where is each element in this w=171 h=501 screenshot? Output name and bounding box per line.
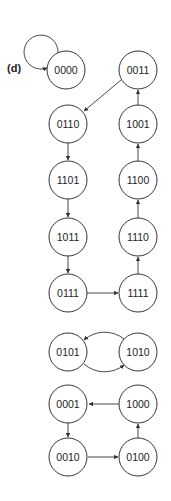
svg-text:0110: 0110 xyxy=(57,118,80,130)
svg-text:1100: 1100 xyxy=(127,174,150,186)
state-transition-diagram: (d) 0000 0011 0110 1001 1101 1100 1011 xyxy=(0,0,171,501)
state-node-1111: 1111 xyxy=(119,274,157,312)
state-node-0111: 0111 xyxy=(49,274,87,312)
state-node-0001: 0001 xyxy=(49,385,87,423)
state-node-0000: 0000 xyxy=(47,51,85,89)
svg-text:0010: 0010 xyxy=(56,451,80,463)
svg-text:1011: 1011 xyxy=(57,231,80,243)
svg-text:0001: 0001 xyxy=(56,398,80,410)
svg-text:0011: 0011 xyxy=(127,64,150,76)
svg-text:1110: 1110 xyxy=(127,231,149,243)
svg-text:1111: 1111 xyxy=(127,287,148,299)
state-node-1010: 1010 xyxy=(119,333,157,371)
edge-1010-0101-arc xyxy=(84,332,124,340)
state-node-0100: 0100 xyxy=(119,438,157,476)
svg-text:0111: 0111 xyxy=(57,287,79,299)
state-node-0110: 0110 xyxy=(49,105,87,143)
svg-text:1101: 1101 xyxy=(57,174,80,186)
panel-label: (d) xyxy=(7,62,21,74)
svg-text:0000: 0000 xyxy=(54,64,78,76)
state-node-1110: 1110 xyxy=(119,218,157,256)
state-node-0101: 0101 xyxy=(49,333,87,371)
svg-text:1000: 1000 xyxy=(126,398,150,410)
edge-0101-1010-arc xyxy=(84,364,124,372)
svg-text:1001: 1001 xyxy=(126,118,150,130)
state-node-1011: 1011 xyxy=(49,218,87,256)
state-node-1001: 1001 xyxy=(119,105,157,143)
svg-text:1010: 1010 xyxy=(126,346,150,358)
svg-text:0100: 0100 xyxy=(126,451,150,463)
state-node-1000: 1000 xyxy=(119,385,157,423)
state-node-0010: 0010 xyxy=(49,438,87,476)
edge-0011-0110 xyxy=(84,80,121,111)
nodes: 0000 0011 0110 1001 1101 1100 1011 1110 … xyxy=(47,51,157,476)
state-node-0011: 0011 xyxy=(119,51,157,89)
svg-text:0101: 0101 xyxy=(56,346,80,358)
state-node-1101: 1101 xyxy=(49,161,87,199)
state-node-1100: 1100 xyxy=(119,161,157,199)
